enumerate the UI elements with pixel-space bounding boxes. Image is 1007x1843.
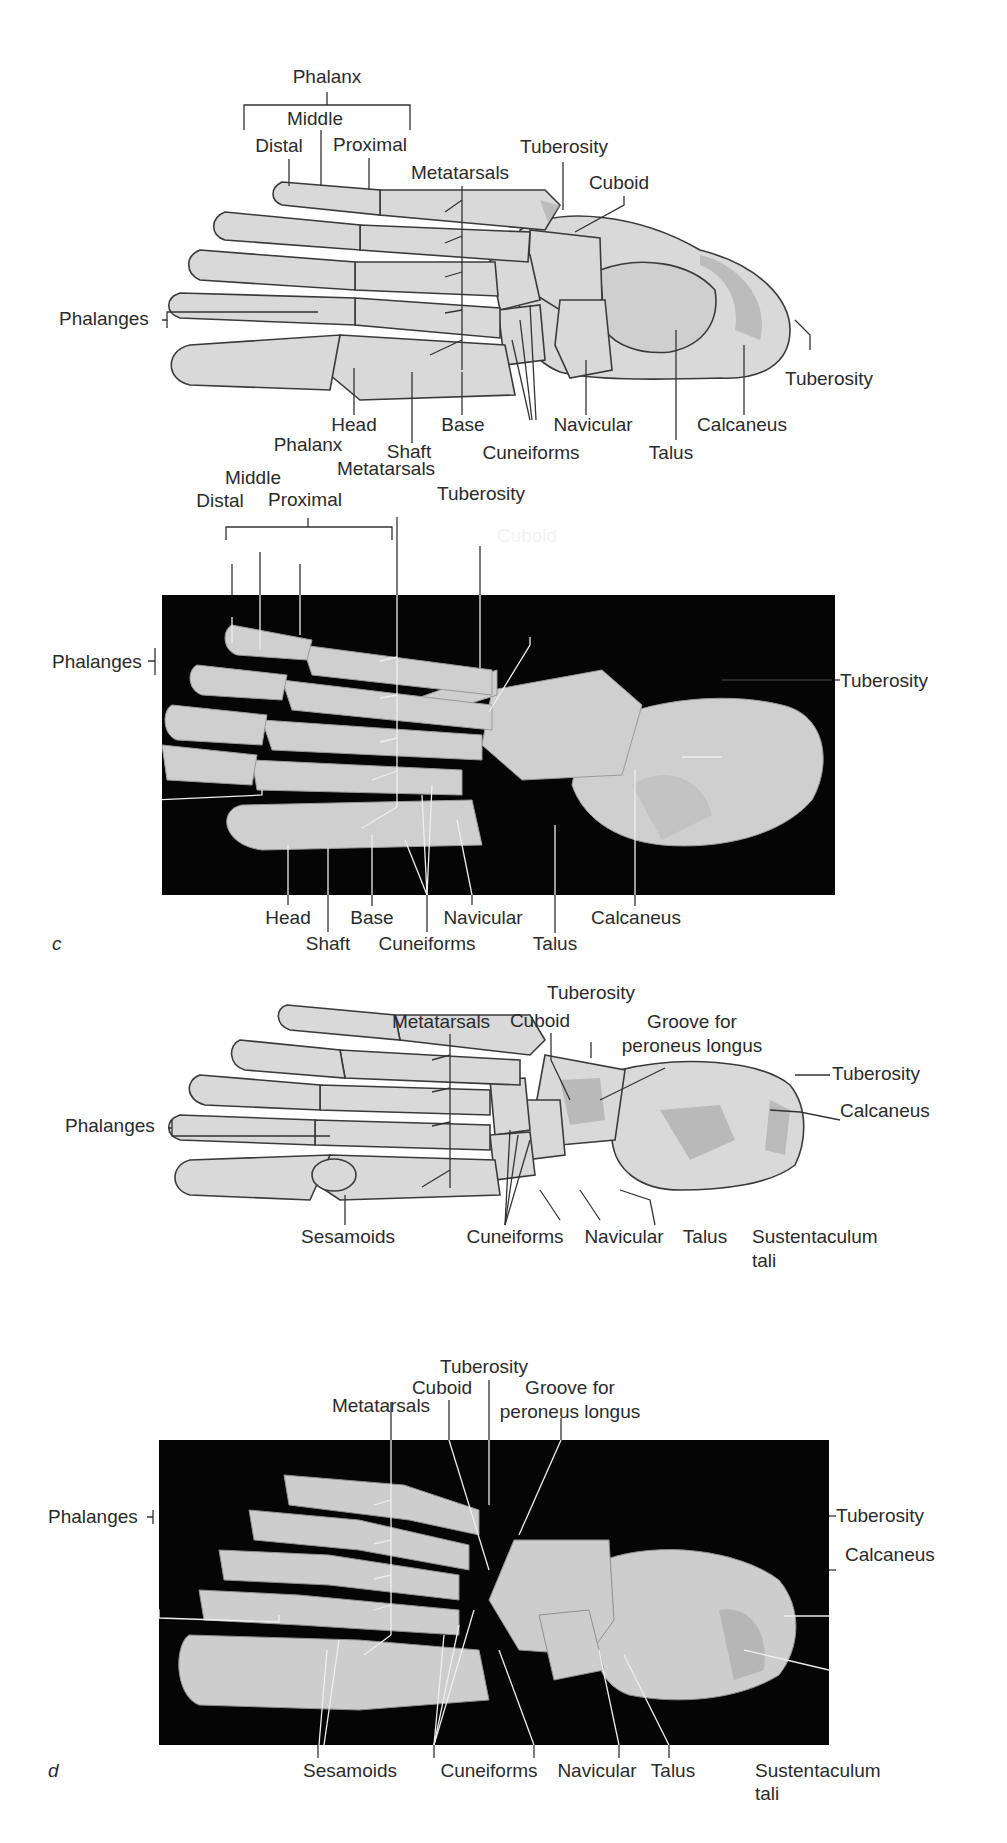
label-calcaneus: Calcaneus bbox=[697, 414, 787, 436]
label-proximal: Proximal bbox=[268, 489, 342, 511]
panel-d-plantar-photograph: Tuberosity Cuboid Groove for peroneus lo… bbox=[0, 1340, 1007, 1826]
label-navicular: Navicular bbox=[557, 1760, 636, 1782]
plantar-illustration-drawing bbox=[0, 960, 1007, 1340]
label-proximal: Proximal bbox=[333, 134, 407, 156]
label-cuneiforms: Cuneiforms bbox=[466, 1226, 563, 1248]
label-metatarsals: Metatarsals bbox=[392, 1011, 490, 1033]
label-calcaneus: Calcaneus bbox=[840, 1100, 930, 1122]
label-phalanges: Phalanges bbox=[48, 1506, 138, 1528]
label-sustentaculum-line1: Sustentaculum bbox=[752, 1226, 878, 1248]
label-tuberosity-5th-metatarsal: Tuberosity bbox=[547, 982, 635, 1004]
label-middle: Middle bbox=[225, 467, 281, 489]
panel-a-drawing bbox=[0, 0, 1007, 470]
label-tuberosity-calcaneus: Tuberosity bbox=[832, 1063, 920, 1085]
panel-letter-d: d bbox=[48, 1760, 59, 1782]
label-cuboid: Cuboid bbox=[589, 172, 649, 194]
dorsal-foot-photo-bones bbox=[162, 595, 835, 895]
label-phalanges: Phalanges bbox=[59, 308, 149, 330]
label-groove-line2: peroneus longus bbox=[622, 1035, 763, 1057]
label-middle: Middle bbox=[287, 108, 343, 130]
label-navicular: Navicular bbox=[584, 1226, 663, 1248]
label-metatarsals: Metatarsals bbox=[332, 1395, 430, 1417]
label-metatarsals: Metatarsals bbox=[337, 458, 435, 480]
label-navicular: Navicular bbox=[443, 907, 522, 929]
label-cuboid: Cuboid bbox=[497, 525, 557, 547]
figure-caption-cutoff bbox=[0, 1826, 1007, 1843]
panel-letter-c: c bbox=[52, 933, 62, 955]
label-phalanges: Phalanges bbox=[65, 1115, 155, 1137]
label-base: Base bbox=[350, 907, 393, 929]
panel-c-dorsal-photograph: Phalanx Middle Distal Proximal Metatarsa… bbox=[0, 480, 1007, 960]
label-head: Head bbox=[331, 414, 376, 436]
label-distal: Distal bbox=[196, 490, 244, 512]
label-phalanges: Phalanges bbox=[52, 651, 142, 673]
label-talus: Talus bbox=[649, 442, 693, 464]
label-sustentaculum-line1: Sustentaculum bbox=[755, 1760, 881, 1782]
label-tuberosity-calcaneus: Tuberosity bbox=[785, 368, 873, 390]
label-calcaneus: Calcaneus bbox=[845, 1544, 935, 1566]
label-phalanx: Phalanx bbox=[293, 66, 362, 88]
label-groove-line1: Groove for bbox=[525, 1377, 615, 1399]
label-cuboid: Cuboid bbox=[510, 1010, 570, 1032]
label-base: Base bbox=[441, 414, 484, 436]
plantar-foot-photo bbox=[159, 1440, 829, 1745]
plantar-foot-photo-bones bbox=[159, 1440, 829, 1745]
label-tuberosity-calcaneus: Tuberosity bbox=[836, 1505, 924, 1527]
label-tuberosity-calcaneus: Tuberosity bbox=[840, 670, 928, 692]
panel-plantar-illustration: Tuberosity Metatarsals Cuboid Groove for… bbox=[0, 960, 1007, 1340]
label-tuberosity-5th-metatarsal: Tuberosity bbox=[440, 1356, 528, 1378]
label-talus: Talus bbox=[683, 1226, 727, 1248]
label-talus: Talus bbox=[533, 933, 577, 955]
label-sesamoids: Sesamoids bbox=[301, 1226, 395, 1248]
label-metatarsals: Metatarsals bbox=[411, 162, 509, 184]
dorsal-foot-photo bbox=[162, 595, 835, 895]
label-sustentaculum-line2: tali bbox=[752, 1250, 776, 1272]
label-shaft: Shaft bbox=[306, 933, 350, 955]
label-navicular: Navicular bbox=[553, 414, 632, 436]
label-groove-line1: Groove for bbox=[647, 1011, 737, 1033]
label-head: Head bbox=[265, 907, 310, 929]
label-groove-line2: peroneus longus bbox=[500, 1401, 641, 1423]
label-phalanx: Phalanx bbox=[274, 434, 343, 456]
label-tuberosity-5th-metatarsal: Tuberosity bbox=[520, 136, 608, 158]
label-calcaneus: Calcaneus bbox=[591, 907, 681, 929]
label-distal: Distal bbox=[255, 135, 303, 157]
label-tuberosity-5th-metatarsal: Tuberosity bbox=[437, 483, 525, 505]
label-cuneiforms: Cuneiforms bbox=[482, 442, 579, 464]
label-cuneiforms: Cuneiforms bbox=[440, 1760, 537, 1782]
label-cuneiforms: Cuneiforms bbox=[378, 933, 475, 955]
panel-a-dorsal-illustration: Phalanx Middle Distal Proximal Metatarsa… bbox=[0, 0, 1007, 470]
label-sustentaculum-line2: tali bbox=[755, 1783, 779, 1805]
label-talus: Talus bbox=[651, 1760, 695, 1782]
label-sesamoids: Sesamoids bbox=[303, 1760, 397, 1782]
